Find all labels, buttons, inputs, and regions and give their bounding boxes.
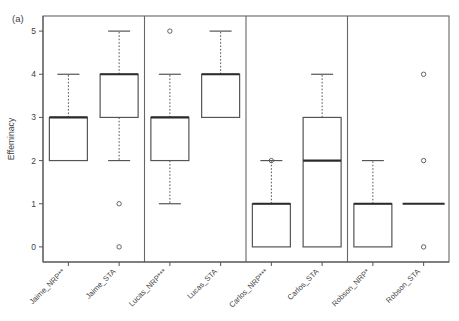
x-tick-label-3: Lucas_NRP*** [127,267,168,308]
panel-label: (a) [12,13,24,24]
boxplot-figure: 012345Effeminacy(a)Jaime_NRP**Jaime_STAL… [0,0,459,321]
box-6-rect [303,117,341,246]
x-tick-label-8: Robson_STA [384,266,423,305]
box-5-rect [252,204,290,247]
y-tick-label-3: 3 [31,112,36,122]
box-2-outlier-2 [117,245,121,249]
x-tick-label-7: Robson_NRP* [330,267,371,308]
box-8-outlier-1 [421,72,425,76]
box-8-outlier-2 [421,158,425,162]
y-axis-title: Effeminacy [6,117,16,160]
box-1-rect [49,117,87,160]
box-2-outlier-1 [117,202,121,206]
boxplot-svg: 012345Effeminacy(a)Jaime_NRP**Jaime_STAL… [0,0,459,321]
x-tick-label-1: Jaime_NRP** [28,267,67,306]
x-tick-label-2: Jaime_STA [84,266,118,300]
y-tick-label-0: 0 [31,242,36,252]
x-tick-label-4: Lucas_STA [185,266,219,300]
y-tick-label-1: 1 [31,199,36,209]
x-tick-label-5: Carlos_NRP*** [227,267,270,310]
box-7-rect [354,204,392,247]
box-2-rect [100,74,138,117]
x-tick-label-6: Carlos_STA [286,266,322,302]
box-3-outlier-1 [168,29,172,33]
box-3-rect [151,117,189,160]
y-tick-label-2: 2 [31,156,36,166]
y-tick-label-5: 5 [31,26,36,36]
box-4-rect [202,74,240,117]
box-8-outlier-3 [421,245,425,249]
y-tick-label-4: 4 [31,69,36,79]
